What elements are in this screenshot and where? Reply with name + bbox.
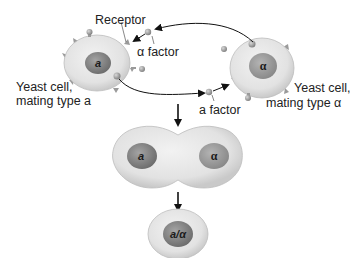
a-factor-arrow	[119, 79, 204, 94]
cell-alpha-label-line1: Yeast cell,	[294, 81, 351, 95]
alpha-factor-pheromone-icon	[221, 46, 227, 52]
cell-a-label-line1: Yeast cell,	[16, 80, 73, 94]
cell-alpha-label-line2: mating type α	[266, 96, 341, 110]
a-factor-leader-line	[212, 95, 214, 101]
yeast-mating-diagram: a α a α	[0, 0, 352, 258]
alpha-factor-bound-icon	[139, 66, 145, 72]
a-factor-pheromone-icon	[114, 73, 121, 80]
yeast-cell-a: a	[62, 29, 145, 93]
alpha-factor-arrow	[156, 23, 253, 42]
a-factor-label: a factor	[199, 103, 241, 117]
diploid-cell: a/α	[148, 209, 208, 258]
alpha-factor-icon	[145, 29, 151, 35]
nucleus-label-alpha: α	[260, 59, 267, 73]
fusing-cells: a α	[113, 126, 243, 188]
nucleus-label-a-fusing: a	[138, 150, 144, 162]
a-factor-icon	[206, 89, 212, 95]
alpha-factor-label: α factor	[137, 45, 179, 59]
nucleus-label-alpha-fusing: α	[211, 149, 218, 163]
alpha-factor-leader-line	[152, 36, 154, 44]
receptor-label: Receptor	[95, 13, 146, 27]
cell-a-label-line2: mating type a	[16, 94, 91, 108]
nucleus-label-a: a	[95, 57, 101, 69]
yeast-cell-alpha: α	[221, 38, 294, 101]
nucleus-label-diploid: a/α	[170, 228, 187, 240]
